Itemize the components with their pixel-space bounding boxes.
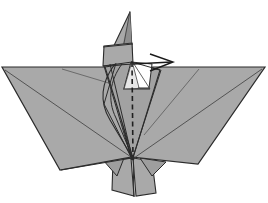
center-vertex-node [130, 156, 134, 160]
origami-diagram-canvas [0, 0, 268, 203]
origami-diagram-figure [0, 0, 268, 203]
